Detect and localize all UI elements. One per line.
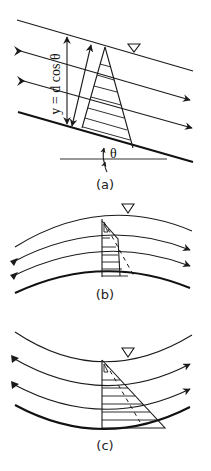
normal-depth-arrow (72, 45, 91, 126)
free-surface-line (17, 20, 193, 71)
streamline-entry-arrow-icon (17, 76, 25, 86)
flow-pressure-diagram: y = d cos θ θ (a) (0, 0, 211, 471)
streamline-entry-arrow-icon (11, 381, 19, 389)
angle-arc-lower (105, 162, 107, 172)
panel-b: (b) (10, 204, 192, 302)
streamline-entry-arrow-icon (14, 46, 22, 56)
streamline-entry-arrow-icon (10, 272, 18, 280)
channel-bed-line (18, 112, 193, 162)
panel-a: y = d cos θ θ (a) (14, 20, 193, 192)
depth-label: y = d cos θ (48, 53, 63, 115)
streamline-entry-arrow-icon (10, 258, 18, 266)
panel-label-b: (b) (96, 287, 114, 302)
streamline-entry-arrow-icon (11, 355, 19, 363)
angle-label: θ (110, 146, 117, 161)
panel-label-a: (a) (96, 177, 114, 192)
panel-label-c: (c) (96, 438, 113, 453)
streamline (17, 50, 190, 100)
free-surface-arc (15, 332, 192, 362)
panel-c: (c) (11, 332, 192, 453)
water-surface-icon (128, 44, 140, 52)
hydrostatic-reference-dashed (106, 364, 140, 422)
water-surface-icon (122, 348, 134, 357)
water-surface-icon (122, 204, 134, 213)
increased-pressure-profile (102, 360, 165, 428)
reduced-pressure-profile (102, 221, 120, 276)
